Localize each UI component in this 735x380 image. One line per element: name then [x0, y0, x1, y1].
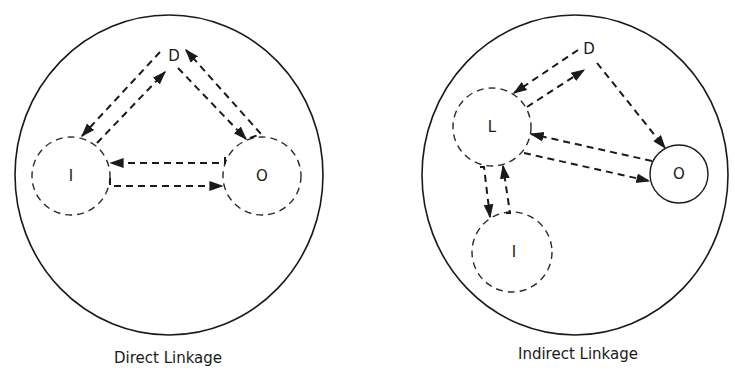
direct-node-o-label: O	[256, 167, 268, 185]
indirect-link-l-to-d	[527, 70, 584, 107]
indirect-node-o-label: O	[673, 165, 685, 183]
indirect-link-l-to-i	[480, 167, 490, 217]
indirect-node-i-label: I	[512, 243, 516, 261]
direct-linkage-caption: Direct Linkage	[114, 349, 222, 367]
indirect-linkage-caption: Indirect Linkage	[518, 345, 638, 363]
direct-link-o-to-d	[186, 50, 261, 138]
indirect-link-d-to-l	[514, 50, 578, 93]
indirect-node-l-label: L	[488, 118, 497, 136]
indirect-node-d-label: D	[583, 40, 595, 58]
direct-node-d-label: D	[168, 47, 180, 65]
direct-linkage-diagram: D I O Direct Linkage	[15, 15, 323, 367]
direct-link-d-to-i	[82, 52, 160, 136]
indirect-link-l-to-o	[524, 153, 649, 181]
indirect-link-d-to-o	[597, 63, 665, 148]
direct-node-i-label: I	[69, 167, 73, 185]
direct-link-o-to-i	[111, 157, 225, 163]
indirect-linkage-diagram: D L I O Indirect Linkage	[422, 15, 728, 363]
direct-link-i-to-o	[110, 178, 222, 186]
linkage-figure: D I O Direct Linkage D L I O	[0, 0, 735, 380]
indirect-link-i-to-l	[503, 166, 510, 213]
indirect-link-o-to-l	[531, 134, 652, 161]
